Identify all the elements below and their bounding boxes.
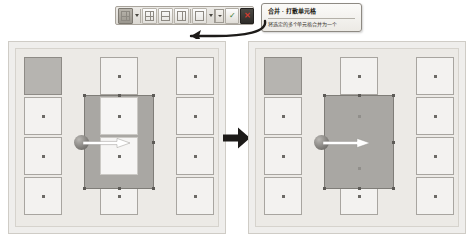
cell-center-dot [282, 115, 285, 118]
cell-center-dot [118, 195, 121, 198]
cell-r3c3[interactable] [176, 137, 214, 175]
resize-handle-top-left[interactable] [323, 94, 326, 97]
arrow-right-icon [83, 138, 131, 148]
grid-split-icon [145, 11, 154, 21]
cell-center-dot [434, 75, 437, 78]
cell-center-dot [118, 115, 121, 118]
before-panel [8, 41, 226, 234]
split-horizontal-icon [161, 11, 170, 21]
merge-cells-dropdown-caret[interactable] [134, 9, 139, 23]
cell-r2c1[interactable] [264, 97, 302, 135]
tooltip-callout: 合并 · 打散单元格 将选定的多个单元格合并为一个 [261, 3, 362, 32]
cell-r1c3[interactable] [416, 57, 454, 95]
cell-center-dot [358, 195, 361, 198]
resize-handle-top-right[interactable] [152, 94, 155, 97]
cell-r3c1[interactable] [24, 137, 62, 175]
resize-handle-bottom-left[interactable] [323, 187, 326, 190]
resize-handle-bottom-left[interactable] [83, 187, 86, 190]
cell-r4c1[interactable] [24, 177, 62, 215]
merged-center-dot [358, 167, 361, 170]
cell-r2c1[interactable] [24, 97, 62, 135]
cell-r2c3[interactable] [416, 97, 454, 135]
resize-handle-top-left[interactable] [83, 94, 86, 97]
chevron-down-icon [135, 14, 139, 17]
cell-center-dot [118, 155, 121, 158]
cell-center-dot [434, 155, 437, 158]
resize-handle-bottom-center[interactable] [358, 187, 361, 190]
split-horizontally-button[interactable] [158, 8, 173, 24]
tooltip-title: 合并 · 打散单元格 [268, 8, 355, 15]
cell-center-dot [434, 115, 437, 118]
cell-center-dot [42, 155, 45, 158]
cell-center-dot [42, 195, 45, 198]
before-stage [15, 48, 219, 227]
resize-handle-top-right[interactable] [392, 94, 395, 97]
resize-handle-bottom-center[interactable] [118, 187, 121, 190]
cell-r1c3[interactable] [176, 57, 214, 95]
cell-r2c3[interactable] [176, 97, 214, 135]
resize-handle-right-center[interactable] [152, 141, 155, 144]
arrow-right-icon [323, 138, 371, 148]
cell-r1c2[interactable] [100, 57, 138, 95]
cell-r2c2[interactable] [100, 97, 138, 135]
cell-r4c3[interactable] [416, 177, 454, 215]
cell-r3c1[interactable] [264, 137, 302, 175]
merge-cells-button[interactable] [118, 8, 133, 24]
cell-r1c2[interactable] [340, 57, 378, 95]
cell-center-dot [118, 75, 121, 78]
after-stage [255, 48, 459, 227]
after-panel [248, 41, 466, 234]
cell-center-dot [358, 75, 361, 78]
cell-center-dot [194, 195, 197, 198]
cell-r1c1[interactable] [264, 57, 302, 95]
cell-center-dot [42, 115, 45, 118]
tooltip-body: 将选定的多个单元格合并为一个 [268, 21, 355, 27]
cell-r4c1[interactable] [264, 177, 302, 215]
cell-center-dot [194, 115, 197, 118]
resize-handle-bottom-right[interactable] [152, 187, 155, 190]
cell-r4c3[interactable] [176, 177, 214, 215]
cell-center-dot [194, 75, 197, 78]
resize-handle-right-center[interactable] [392, 141, 395, 144]
cell-r1c1[interactable] [24, 57, 62, 95]
resize-handle-top-center[interactable] [358, 94, 361, 97]
cell-center-dot [282, 195, 285, 198]
cell-center-dot [434, 195, 437, 198]
cell-r3c3[interactable] [416, 137, 454, 175]
tooltip-divider [268, 18, 355, 19]
resize-handle-bottom-right[interactable] [392, 187, 395, 190]
merged-center-dot [358, 115, 361, 118]
split-cells-button[interactable] [142, 8, 157, 24]
transition-arrow [223, 126, 251, 150]
cell-center-dot [282, 155, 285, 158]
callout-arrow [175, 17, 270, 39]
cell-center-dot [194, 155, 197, 158]
toolbar-separator [140, 9, 141, 23]
grid-merge-icon [121, 11, 130, 21]
